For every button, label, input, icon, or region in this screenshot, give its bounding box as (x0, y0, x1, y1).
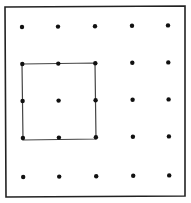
peg-dot (94, 135, 98, 139)
peg-dot (20, 99, 24, 103)
peg-dot (21, 175, 25, 179)
geoboard-diagram (0, 0, 191, 203)
peg-grid (20, 23, 172, 179)
peg-dot (130, 24, 134, 28)
peg-dot (167, 173, 171, 177)
peg-dot (166, 60, 170, 64)
peg-dot (131, 174, 135, 178)
peg-dot (93, 98, 97, 102)
peg-dot (20, 62, 24, 66)
peg-dot (57, 174, 61, 178)
peg-dot (166, 23, 170, 27)
peg-dot (94, 174, 98, 178)
peg-dot (56, 98, 60, 102)
peg-dot (93, 61, 97, 65)
peg-dot (130, 61, 134, 65)
peg-dot (130, 98, 134, 102)
peg-dot (167, 134, 171, 138)
peg-dot (56, 61, 60, 65)
peg-dot (57, 135, 61, 139)
peg-dot (56, 24, 60, 28)
peg-dot (93, 24, 97, 28)
peg-dot (131, 135, 135, 139)
peg-dot (166, 97, 170, 101)
peg-dot (21, 136, 25, 140)
peg-dot (20, 25, 24, 29)
